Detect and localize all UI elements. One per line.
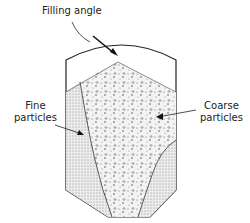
- filling-angle-leader: [72, 22, 90, 42]
- fine-label-line1: Fine: [14, 100, 57, 112]
- coarse-label-line1: Coarse: [200, 100, 243, 112]
- filling-angle-label: Filling angle: [42, 5, 102, 17]
- coarse-label-line2: particles: [200, 112, 243, 124]
- coarse-particles-label: Coarse particles: [200, 100, 243, 124]
- fine-label-line2: particles: [14, 112, 57, 124]
- fine-particles-label: Fine particles: [14, 100, 57, 124]
